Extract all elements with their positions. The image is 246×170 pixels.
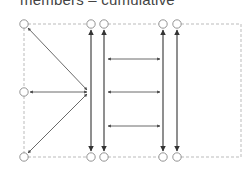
vertical-arrows <box>91 30 177 151</box>
diagram-canvas <box>0 0 246 170</box>
node-top-3 <box>159 20 167 28</box>
node-bottom-4 <box>173 153 181 161</box>
horizontal-arrows <box>108 59 160 126</box>
node-bottom-3 <box>159 153 167 161</box>
node-top-left <box>20 20 28 28</box>
nodes <box>20 20 181 161</box>
node-bottom-left <box>20 153 28 161</box>
node-top-4 <box>173 20 181 28</box>
node-top-1 <box>87 20 95 28</box>
node-top-2 <box>100 20 108 28</box>
dashed-frame <box>24 24 241 157</box>
node-middle-left <box>20 88 28 96</box>
node-bottom-2 <box>100 153 108 161</box>
node-bottom-1 <box>87 153 95 161</box>
hub-arrows <box>28 28 87 153</box>
